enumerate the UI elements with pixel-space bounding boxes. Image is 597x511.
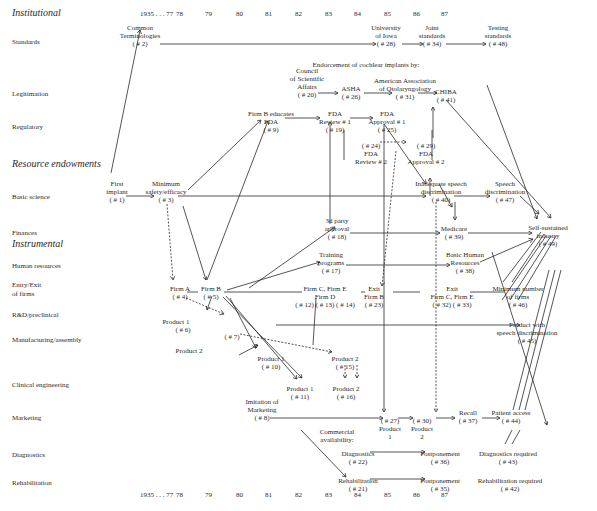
row-label: Finances [12,229,37,237]
node-n3: Minimum safety/efficacy ( # 3) [145,180,186,204]
node-n17: Training programs ( # 17) [318,251,344,275]
row-label: Standards [12,38,40,46]
node-n11: Product 1 ( # 11) [286,385,313,401]
year-tick-bottom: 79 [205,491,212,499]
node-n32: Exit Firm C, Firm E ( # 32) ( # 33) [430,285,473,309]
year-tick-bottom: 82 [295,491,302,499]
year-tick-bottom: 1935 . . . 77 [140,491,173,499]
node-n34: Joint standards ( # 34) [419,24,445,48]
node-n22: Diagnostics ( # 22) [341,450,374,466]
year-tick-top: 83 [325,10,332,18]
node-n9: Firm B educates FDA ( # 9) [248,110,294,134]
row-label: Marketing [12,414,41,422]
arrow-edge [207,121,268,280]
node-n45: Product with speech discrimination ( # 4… [496,321,557,345]
row-label: Basic science [12,193,50,201]
node-n42: Rehabilitation required ( # 42) [478,477,543,493]
year-tick-bottom: 83 [325,491,332,499]
node-n38: Basic Human Resources ( # 38) [446,251,484,275]
year-tick-top: 82 [295,10,302,18]
node-n21: Rehabilitation ( # 21) [338,477,378,493]
node-n27: ( # 27) Product 1 [379,417,401,441]
node-n24: ( # 24) FDA Review # 2 [355,142,387,166]
row-label: Regulatory [12,123,43,131]
node-n2: Common Terminologies ( # 2) [120,24,160,48]
node-n7: ( # 7) [224,333,239,341]
node-n1: First implant ( # 1) [106,180,127,204]
node-n16: Product 2 ( # 16) [332,385,359,401]
arrow-edge [111,30,140,173]
node-n36: Postponement ( # 36) [420,450,460,466]
year-tick-top: 87 [441,10,448,18]
year-tick-top: 84 [354,10,361,18]
node-n30: ( # 30) Product 2 [411,417,433,441]
node-n31: American Association of Otolaryngology (… [374,77,436,101]
node-n39: Medicare ( # 39) [441,225,467,241]
node-n4: Firm A ( # 4) [170,285,190,301]
node-p2: Product 2 [175,347,202,355]
row-label: Rehabilitation [12,479,52,487]
node-n46: Minimum number of firms ( # 46) [492,285,543,309]
diagram-canvas: InstitutionalResource endowmentsInstrume… [0,0,597,511]
node-ca: Commercial availability: [320,428,355,444]
node-n5: Firm B ( # 5) [201,285,221,301]
node-n19: FDA Review # 1 ( # 19) [319,110,351,134]
row-label: of firms [12,290,34,298]
year-tick-bottom: 80 [236,491,243,499]
year-tick-top: 86 [413,10,420,18]
year-tick-top: 78 [176,10,183,18]
year-tick-top: 81 [265,10,272,18]
row-label: Diagnostics [12,451,45,459]
arrow-edge [183,206,206,280]
node-n23: Exit Firm B ( # 23) [364,285,384,309]
node-n20: Council of Scientific Affairs ( # 20) [290,67,324,99]
year-tick-bottom: 78 [176,491,183,499]
node-n29: ( # 29) FDA Approval # 2 [408,142,445,166]
row-label: Legitimation [12,90,48,98]
node-n43: Diagnostics required ( # 43) [479,450,537,466]
node-n25: FDA Approval # 1 ( # 25) [369,110,406,134]
node-n12: Firm C, Firm E Firm D ( # 12) ( # 13) ( … [295,285,355,309]
year-tick-top: 79 [205,10,212,18]
row-label: Clinical engineering [12,381,69,389]
section-heading: Institutional [12,7,61,18]
arrow-edge [480,239,533,262]
dashed-arrow-edge [167,204,173,280]
year-tick-bottom: 86 [413,491,420,499]
line-edge [505,430,512,444]
node-endorse: Endorcement of cochlear implants by: [313,61,420,69]
node-n35: Postponement ( # 35) [420,477,460,493]
section-heading: Instrumental [12,238,63,249]
year-tick-top: 85 [384,10,391,18]
node-n10: Product 1 ( # 10) [257,355,284,371]
row-label: R&D/preclinical [12,311,59,319]
node-n40: Inadequate speech discrimination ( # 40) [415,180,467,204]
node-n41: CHIBA ( # 41) [435,88,457,104]
node-n6: Product 1 ( # 6) [161,318,190,334]
year-tick-top: 80 [236,10,243,18]
year-tick-top: 1935 . . . 77 [140,10,173,18]
node-n49: Self-sustained industry ( # 49) [528,224,568,248]
node-n26: ASHA ( # 26) [341,85,360,101]
node-n18: 3d party approval ( # 18) [325,217,350,241]
node-n8: Imitation of Marketing ( # 8) [245,398,278,422]
row-label: Manufacturing/assembly [12,336,82,344]
node-n28: University of Iowa ( # 28) [371,24,401,48]
year-tick-bottom: 81 [265,491,272,499]
section-heading: Resource endowments [12,158,101,169]
line-edge [512,430,520,444]
node-n37: Recall ( # 37) [459,409,478,425]
year-tick-bottom: 85 [384,491,391,499]
node-n15: Product 2 ( # 15) [331,355,358,371]
row-label: Human resources [12,262,61,270]
row-label: Entry/Exit [12,281,41,289]
node-n47: Speech discrimination ( # 47) [485,180,525,204]
node-n48: Testing standards ( # 48) [485,24,511,48]
node-n44: Patient access ( # 44) [491,409,530,425]
